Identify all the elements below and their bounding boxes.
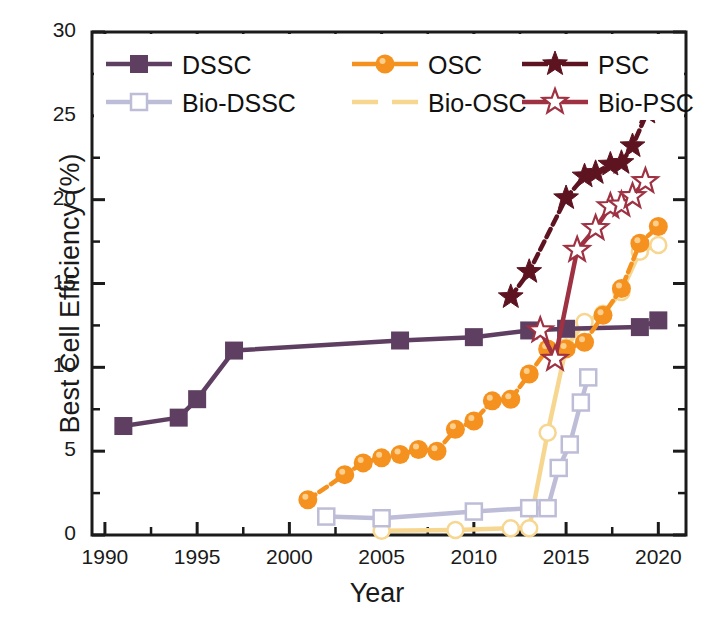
marker-osc-highlight <box>450 423 456 429</box>
marker-osc-highlight <box>487 395 493 401</box>
marker-dssc <box>114 417 132 435</box>
marker-osc-highlight <box>561 343 567 349</box>
marker-osc <box>483 391 502 410</box>
y-tick-label: 20 <box>14 186 76 210</box>
marker-osc-highlight <box>468 415 474 421</box>
legend-label-bio-psc: Bio-PSC <box>598 89 694 117</box>
x-tick-label: 2010 <box>429 545 519 569</box>
marker-osc <box>630 234 649 253</box>
x-tick-label: 2015 <box>521 545 611 569</box>
marker-bio-dssc <box>540 500 556 516</box>
marker-bio-dssc <box>521 500 537 516</box>
marker-osc-highlight <box>431 445 437 451</box>
marker-osc-highlight <box>413 443 419 449</box>
legend-marker-osc <box>376 55 395 74</box>
x-axis-title: Year <box>92 578 662 609</box>
marker-osc <box>391 445 410 464</box>
marker-osc <box>649 217 668 236</box>
marker-dssc <box>170 409 188 427</box>
chart-root: DSSCOSCPSCBio-DSSCBio-OSCBio-PSC Best Ce… <box>0 0 716 625</box>
y-tick-label: 15 <box>14 270 76 294</box>
marker-osc-highlight <box>634 237 640 243</box>
x-tick-label: 1990 <box>60 545 150 569</box>
y-tick-label: 25 <box>14 102 76 126</box>
legend-marker-dssc <box>130 55 148 73</box>
marker-osc-highlight <box>339 469 345 475</box>
marker-osc <box>593 306 612 325</box>
marker-osc <box>427 442 446 461</box>
marker-osc-highlight <box>616 283 622 289</box>
marker-psc <box>620 133 645 157</box>
marker-osc-highlight <box>358 457 364 463</box>
marker-osc-highlight <box>524 368 530 374</box>
marker-osc <box>372 448 391 467</box>
marker-osc <box>575 333 594 352</box>
marker-psc <box>517 259 542 283</box>
chart-legend: DSSCOSCPSCBio-DSSCBio-OSCBio-PSC <box>94 34 694 120</box>
marker-osc <box>520 365 539 384</box>
legend-marker-osc-highlight <box>380 58 386 64</box>
marker-osc <box>446 420 465 439</box>
x-tick-label: 2020 <box>613 545 703 569</box>
marker-bio-osc <box>521 520 537 536</box>
x-tick-label: 1995 <box>152 545 242 569</box>
series-osc <box>298 217 667 509</box>
marker-bio-osc <box>540 425 556 441</box>
legend-label-bio-osc: Bio-OSC <box>428 89 527 117</box>
series-psc <box>498 91 670 307</box>
legend-label-dssc: DSSC <box>182 51 251 79</box>
y-tick-label: 10 <box>14 353 76 377</box>
marker-bio-dssc <box>466 504 482 520</box>
marker-osc <box>501 390 520 409</box>
marker-dssc <box>465 328 483 346</box>
marker-osc-highlight <box>395 449 401 455</box>
marker-bio-osc <box>503 520 519 536</box>
marker-dssc <box>649 311 667 329</box>
y-axis-title: Best Cell Efficiency (%) <box>55 104 86 484</box>
marker-bio-dssc <box>573 395 589 411</box>
legend-label-bio-dssc: Bio-DSSC <box>182 89 296 117</box>
marker-bio-dssc <box>562 436 578 452</box>
marker-dssc <box>225 342 243 360</box>
marker-osc <box>298 490 317 509</box>
marker-osc-highlight <box>579 336 585 342</box>
y-tick-label: 30 <box>14 18 76 42</box>
legend-label-psc: PSC <box>598 51 649 79</box>
line-chart-figure: DSSCOSCPSCBio-DSSCBio-OSCBio-PSC <box>0 0 716 625</box>
marker-osc-highlight <box>376 452 382 458</box>
series-line-bio-dssc <box>326 377 588 518</box>
marker-bio-dssc <box>374 510 390 526</box>
legend-label-osc: OSC <box>428 51 482 79</box>
marker-osc <box>612 279 631 298</box>
x-tick-label: 2000 <box>244 545 334 569</box>
marker-dssc <box>391 332 409 350</box>
marker-bio-dssc <box>318 509 334 525</box>
legend-marker-bio-dssc <box>131 94 147 110</box>
marker-osc <box>335 465 354 484</box>
marker-bio-osc <box>650 237 666 253</box>
x-tick-label: 2005 <box>337 545 427 569</box>
marker-bio-osc <box>447 522 463 538</box>
marker-osc <box>464 411 483 430</box>
marker-osc-highlight <box>597 309 603 315</box>
marker-bio-dssc <box>551 460 567 476</box>
marker-dssc <box>631 318 649 336</box>
marker-bio-dssc <box>580 369 596 385</box>
y-tick-label: 0 <box>14 521 76 545</box>
data-series-layer <box>114 91 670 539</box>
marker-osc-highlight <box>505 393 511 399</box>
marker-dssc <box>188 390 206 408</box>
marker-osc-highlight <box>653 220 659 226</box>
marker-osc <box>354 453 373 472</box>
marker-osc-highlight <box>302 494 308 500</box>
marker-osc <box>409 440 428 459</box>
y-tick-label: 5 <box>14 437 76 461</box>
